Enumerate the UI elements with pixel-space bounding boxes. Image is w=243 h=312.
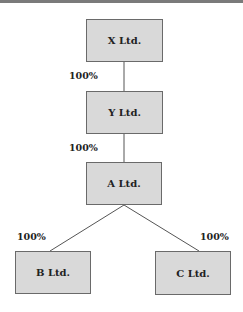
node-label: Y Ltd. bbox=[108, 107, 141, 118]
edge-label-a-c: 100% bbox=[200, 231, 229, 242]
node-label: B Ltd. bbox=[36, 267, 70, 278]
edge-label-y-a: 100% bbox=[69, 142, 98, 153]
node-label: A Ltd. bbox=[107, 178, 140, 189]
node-x-ltd: X Ltd. bbox=[86, 19, 163, 62]
node-a-ltd: A Ltd. bbox=[86, 162, 162, 205]
edge-a-c bbox=[124, 205, 199, 251]
node-b-ltd: B Ltd. bbox=[15, 251, 91, 294]
node-label: X Ltd. bbox=[108, 35, 141, 46]
edge-label-x-y: 100% bbox=[69, 70, 98, 81]
node-y-ltd: Y Ltd. bbox=[86, 91, 163, 134]
edge-label-a-b: 100% bbox=[17, 231, 46, 242]
node-c-ltd: C Ltd. bbox=[155, 251, 231, 295]
edge-a-b bbox=[50, 205, 124, 251]
node-label: C Ltd. bbox=[176, 268, 210, 279]
